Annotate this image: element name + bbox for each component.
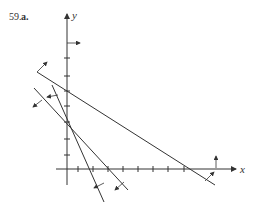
line-1 xyxy=(37,72,215,185)
line-1-bottom-arrow xyxy=(205,172,214,181)
axes xyxy=(56,14,236,185)
constraint-lines xyxy=(34,72,215,202)
graph: x y xyxy=(0,0,261,209)
x-axis-label: x xyxy=(239,163,245,175)
y-axis-label: y xyxy=(71,9,77,21)
line-3-bottom-arrow xyxy=(115,182,124,190)
line-1-shade-arrow xyxy=(37,62,47,72)
line-3 xyxy=(34,88,128,190)
line-2 xyxy=(52,85,104,202)
line-3-shade-arrow xyxy=(33,100,42,107)
